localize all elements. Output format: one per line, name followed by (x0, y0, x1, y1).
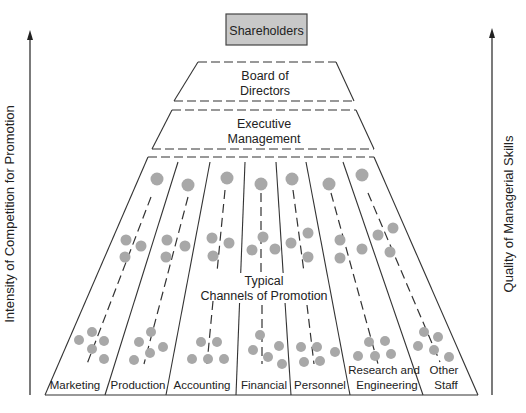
shareholders-label: Shareholders (229, 24, 303, 38)
channel-production (144, 197, 188, 364)
board-line2: Directors (240, 84, 290, 98)
shareholders-box: Shareholders (226, 14, 307, 45)
center-label-line1: Typical (245, 274, 284, 288)
channel-accounting-upper (217, 190, 225, 272)
arrowhead-icon (27, 30, 33, 40)
board-of-directors: Board of Directors (174, 62, 354, 101)
center-label-line2: Channels of Promotion (200, 289, 327, 303)
executive-management: Executive Management (152, 110, 374, 149)
right-axis: Quality of Managerial Skills (489, 28, 516, 395)
middle-dots (120, 223, 399, 264)
right-axis-label: Quality of Managerial Skills (501, 135, 516, 292)
channel-personnel-lower (307, 305, 314, 364)
arrowhead-icon (489, 28, 495, 38)
executive-line1: Executive (237, 117, 291, 131)
dept-other-line1: Other (430, 364, 459, 376)
top-dots (151, 169, 369, 192)
executive-line2: Management (228, 132, 301, 146)
channel-personnel-upper (293, 190, 304, 272)
dept-other-line2: Staff (434, 379, 458, 391)
channel-other (368, 193, 440, 362)
dept-personnel: Personnel (294, 379, 346, 391)
dept-rne-line2: Engineering (356, 379, 417, 391)
left-axis: Intensity of Competition for Promotion (2, 30, 33, 395)
dept-financial: Financial (241, 379, 287, 391)
bottom-dots (74, 327, 454, 369)
dept-accounting: Accounting (174, 379, 231, 391)
promotion-channels-diagram: Intensity of Competition for Promotion Q… (0, 0, 526, 413)
dept-rne-line1: Research and (348, 364, 420, 376)
dept-marketing: Marketing (50, 379, 101, 391)
departments-trapezoid: Typical Channels of Promotion Marketing … (45, 157, 478, 395)
left-axis-label: Intensity of Competition for Promotion (2, 105, 17, 323)
board-line1: Board of (241, 69, 289, 83)
dept-production: Production (111, 379, 166, 391)
